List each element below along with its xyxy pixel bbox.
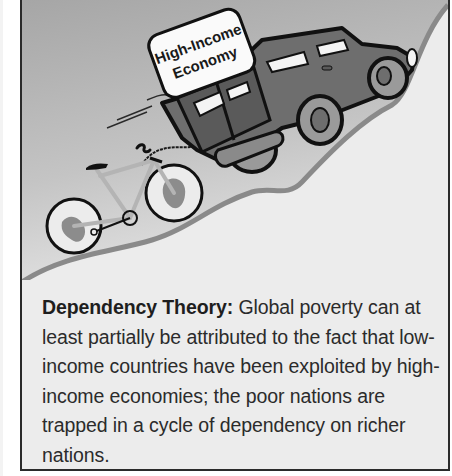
dependency-illustration: High-Income Economy (22, 0, 448, 280)
caption-term: Dependency Theory: (42, 296, 233, 318)
page-margin (0, 0, 3, 476)
caption-definition: Global poverty can at least partially be… (42, 296, 440, 466)
figure-panel: High-Income Economy Dependency Theory: G… (20, 0, 450, 471)
caption: Dependency Theory: Global poverty can at… (42, 293, 442, 470)
